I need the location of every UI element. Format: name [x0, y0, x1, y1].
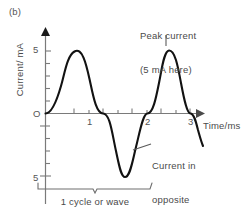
x-axis-label: Time/ms — [203, 120, 240, 131]
y-axis-label: Current/ mA — [14, 34, 25, 106]
y-tick-label-negative-5: 5 — [33, 172, 38, 183]
y-tick-label-positive-5: 5 — [33, 44, 38, 55]
cycle-bracket-label: 1 cycle or wave — [38, 196, 152, 207]
peak-current-annotation-line2: (5 mA here) — [140, 64, 196, 75]
x-tick-label-2: 2 — [145, 116, 150, 127]
peak-current-annotation-line1: Peak current — [140, 30, 196, 41]
x-tick-label-1: 1 — [87, 116, 92, 127]
panel-label: (b) — [9, 6, 21, 17]
opposite-direction-annotation: Current in opposite direction — [152, 138, 196, 222]
x-tick-label-3: 3 — [188, 116, 193, 127]
cycle-bracket — [38, 183, 152, 193]
x-axis — [45, 109, 205, 118]
opposite-direction-annotation-line2: opposite — [152, 194, 196, 205]
origin-tick-label: O — [33, 108, 40, 119]
figure-container: (b) Current/ mA Time/ms O 5 5 1 2 3 Peak… — [0, 0, 249, 222]
peak-current-annotation: Peak current (5 mA here) — [140, 8, 196, 98]
y-axis — [41, 27, 50, 204]
x-axis-ticks — [74, 109, 190, 114]
opposite-direction-annotation-line1: Current in — [152, 160, 196, 171]
